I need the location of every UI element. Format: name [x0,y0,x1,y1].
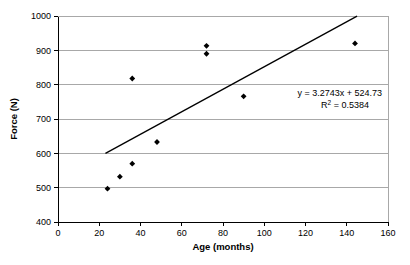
x-tick-label-40: 40 [135,228,145,238]
y-tick-label-700: 700 [36,114,51,124]
data-point-7 [241,93,247,99]
x-axis-title: Age (months) [192,241,253,252]
y-tick-label-500: 500 [36,183,51,193]
x-tick-label-140: 140 [339,228,354,238]
y-axis-title: Force (N) [8,98,19,140]
x-tick-label-0: 0 [55,228,60,238]
trendline-equation: y = 3.2743x + 524.73 [297,88,382,98]
x-tick-label-80: 80 [218,228,228,238]
y-tick-label-600: 600 [36,149,51,159]
x-tick-label-60: 60 [177,228,187,238]
r-squared-number: = 0.5384 [331,100,369,110]
scatter-plot: 4005006007008009001000020406080100120140… [0,0,410,265]
y-tick-label-1000: 1000 [31,11,51,21]
y-tick-label-900: 900 [36,46,51,56]
data-point-1 [117,174,123,180]
equation-annotation: y = 3.2743x + 524.73R2 = 0.5384 [297,88,382,110]
x-tick-label-100: 100 [257,228,272,238]
x-axis: 020406080100120140160 [55,222,395,238]
y-tick-label-400: 400 [36,217,51,227]
x-tick-label-160: 160 [380,228,395,238]
data-point-3 [129,76,135,82]
data-point-4 [154,139,160,145]
data-point-8 [352,41,358,47]
chart-container: 4005006007008009001000020406080100120140… [0,0,410,265]
y-axis: 4005006007008009001000 [31,11,58,227]
data-point-6 [204,51,210,57]
data-point-0 [105,186,111,192]
r-squared-value: R2 = 0.5384 [321,99,369,111]
x-tick-label-120: 120 [298,228,313,238]
data-point-2 [129,161,135,167]
data-points [105,41,358,192]
y-tick-label-800: 800 [36,80,51,90]
data-point-5 [204,43,210,49]
x-tick-label-20: 20 [94,228,104,238]
